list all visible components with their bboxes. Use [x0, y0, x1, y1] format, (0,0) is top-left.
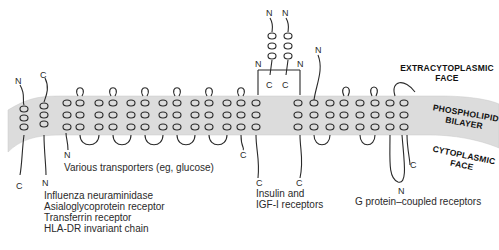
insulin-label: Insulin and IGF-I receptors: [256, 188, 323, 210]
terminus-c: C: [266, 80, 273, 90]
terminus-n: N: [15, 76, 22, 86]
insulin-label-line2: IGF-I receptors: [256, 199, 323, 210]
gpcr-label: G protein–coupled receptors: [355, 196, 481, 207]
transporters-label: Various transporters (eg, glucose): [64, 162, 214, 173]
type-i-examples: Influenza neuraminidase Asialoglycoprote…: [44, 190, 165, 234]
terminus-c: C: [282, 80, 289, 90]
example: Asialoglycoprotein receptor: [44, 201, 165, 212]
extracytoplasmic-line1: EXTRACYTOPLASMIC: [395, 63, 499, 73]
terminus-c: C: [40, 70, 47, 80]
terminus-n: N: [42, 178, 49, 188]
extracytoplasmic-line2: FACE: [395, 73, 499, 83]
example: HLA-DR invariant chain: [44, 223, 165, 234]
terminus-c: C: [410, 160, 417, 170]
example: Influenza neuraminidase: [44, 190, 165, 201]
terminus-c: C: [296, 178, 303, 188]
extracytoplasmic-face-label: EXTRACYTOPLASMIC FACE: [395, 63, 499, 83]
terminus-n: N: [297, 59, 304, 69]
example: Transferrin receptor: [44, 212, 165, 223]
terminus-n: N: [255, 59, 262, 69]
terminus-n: N: [64, 150, 71, 160]
terminus-n: N: [315, 45, 322, 55]
terminus-c: C: [256, 178, 263, 188]
terminus-c: C: [240, 150, 247, 160]
terminus-n: N: [266, 8, 273, 18]
insulin-label-line1: Insulin and: [256, 188, 323, 199]
terminus-n: N: [398, 186, 405, 196]
terminus-n: N: [282, 8, 289, 18]
terminus-c: C: [16, 181, 23, 191]
